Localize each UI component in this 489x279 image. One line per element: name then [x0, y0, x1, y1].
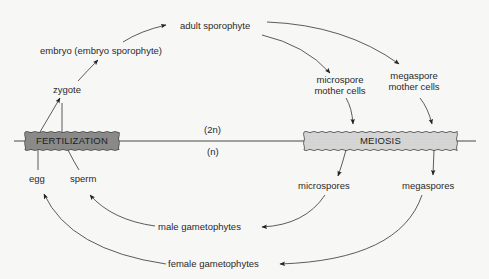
adult-sporophyte-label: adult sporophyte	[180, 20, 250, 31]
line-sperm-to-fertilization	[68, 150, 79, 170]
life-cycle-diagram: FERTILIZATION MEIOSIS (2n) (n) zygote em…	[0, 0, 489, 279]
female-gametophytes-label: female gametophytes	[168, 258, 259, 269]
arrow-embryo-to-adult	[123, 25, 166, 42]
arrow-megaspore-mother-cells-to-meiosis	[420, 98, 432, 124]
arrow-microspores-to-male-gametophytes	[262, 195, 325, 227]
microspore-mother-cells-label: microspore mother cells	[306, 74, 374, 96]
sperm-label: sperm	[70, 173, 96, 184]
arrow-meiosis-to-megaspores	[433, 150, 434, 175]
fertilization-label: FERTILIZATION	[25, 132, 119, 150]
megaspore-mother-cells-line2: mother cells	[380, 81, 448, 92]
male-gametophytes-label: male gametophytes	[158, 221, 241, 232]
arrow-male-gametophytes-to-sperm	[90, 195, 155, 226]
meiosis-label: MEIOSIS	[304, 132, 457, 150]
arrow-female-gametophytes-to-egg	[44, 194, 166, 264]
haploid-label: (n)	[207, 146, 219, 157]
arrow-meiosis-to-microspores	[338, 150, 346, 176]
arrow-adult-to-microspore-mother-cells	[262, 35, 330, 73]
arrow-microspore-mother-cells-to-meiosis	[346, 98, 353, 124]
megaspore-mother-cells-line1: megaspore	[380, 70, 448, 81]
arrow-zygote-to-embryo	[78, 60, 98, 81]
embryo-label: embryo (embryo sporophyte)	[40, 45, 162, 56]
arrow-megaspores-to-female-gametophytes	[280, 195, 422, 264]
microspore-mother-cells-line1: microspore	[306, 74, 374, 85]
microspores-label: microspores	[298, 180, 350, 191]
microspore-mother-cells-line2: mother cells	[306, 85, 374, 96]
egg-label: egg	[29, 173, 45, 184]
megaspore-mother-cells-label: megaspore mother cells	[380, 70, 448, 92]
megaspores-label: megaspores	[402, 180, 454, 191]
diploid-label: (2n)	[204, 124, 221, 135]
zygote-label: zygote	[53, 84, 81, 95]
arrow-fertilization-to-zygote	[40, 98, 60, 132]
